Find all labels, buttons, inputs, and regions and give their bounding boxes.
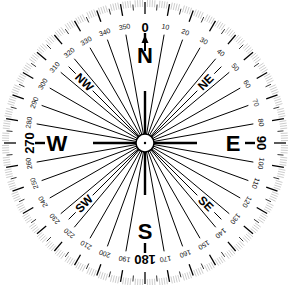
degree-label: 70 <box>251 98 260 108</box>
fine-tick <box>277 108 284 110</box>
fine-tick <box>277 176 284 178</box>
fine-tick <box>278 113 285 114</box>
major-tick <box>86 264 89 269</box>
fine-tick <box>164 1 165 8</box>
major-tick <box>47 45 51 49</box>
fine-tick <box>185 273 187 280</box>
degree-label: 190 <box>118 255 131 264</box>
fine-tick <box>11 92 18 95</box>
major-tick <box>47 237 51 241</box>
fine-tick <box>110 4 112 11</box>
major-tick <box>272 165 284 167</box>
fine-tick <box>8 183 15 185</box>
fine-tick <box>265 207 271 210</box>
fine-tick <box>189 8 191 15</box>
fine-tick <box>194 270 197 277</box>
fine-tick <box>274 99 281 101</box>
fine-tick <box>12 194 18 197</box>
fine-tick <box>128 1 129 8</box>
fine-tick <box>91 10 94 16</box>
degree-label: 100 <box>257 157 266 170</box>
cardinal-letter-e: E <box>226 131 241 156</box>
degree-label: 120 <box>241 195 253 209</box>
intercardinal-ray-outer <box>214 67 221 74</box>
fine-tick <box>8 180 15 182</box>
fine-tick <box>266 205 272 208</box>
fine-tick <box>279 116 286 117</box>
major-tick <box>277 131 283 132</box>
intercardinal-ray <box>93 149 139 195</box>
fine-tick <box>196 269 199 275</box>
fine-tick <box>267 80 273 83</box>
degree-label: 50 <box>230 62 240 73</box>
degree-label: 240 <box>37 195 49 209</box>
fine-tick <box>272 192 279 195</box>
radial-ray <box>74 59 139 136</box>
major-tick <box>19 199 24 202</box>
radial-ray <box>151 59 216 136</box>
major-tick <box>157 5 158 11</box>
fine-tick <box>280 123 287 124</box>
major-tick <box>257 73 267 79</box>
major-tick <box>239 237 243 241</box>
fine-tick <box>269 85 275 88</box>
radial-ray <box>152 149 229 214</box>
major-tick <box>133 275 134 281</box>
fine-tick <box>189 272 191 279</box>
major-tick <box>272 119 284 121</box>
intercardinal-label-ne: NE <box>195 71 217 93</box>
major-tick <box>75 255 81 265</box>
major-tick <box>7 131 13 132</box>
fine-tick <box>87 267 90 273</box>
fine-tick <box>113 4 115 11</box>
fine-tick <box>6 174 13 176</box>
fine-tick <box>18 205 24 208</box>
intercardinal-ray <box>151 149 197 195</box>
fine-tick <box>101 7 103 14</box>
degree-label: 20 <box>180 27 190 36</box>
fine-tick <box>78 263 81 269</box>
fine-tick <box>187 7 189 14</box>
fine-tick <box>8 104 15 106</box>
fine-tick <box>14 198 20 201</box>
fine-tick <box>115 276 116 283</box>
major-tick <box>179 271 181 277</box>
major-tick <box>31 219 36 222</box>
major-tick <box>109 271 111 277</box>
fine-tick <box>3 160 10 161</box>
fine-tick <box>209 17 212 23</box>
fine-tick <box>125 1 126 8</box>
fine-tick <box>266 78 272 81</box>
fine-tick <box>11 192 18 195</box>
radial-ray <box>152 72 229 137</box>
fine-tick <box>115 3 116 10</box>
major-tick <box>167 270 169 282</box>
major-tick <box>254 219 259 222</box>
fine-tick <box>91 269 94 275</box>
intercardinal-label-se: SE <box>195 193 216 214</box>
fine-tick <box>89 11 92 17</box>
fine-tick <box>278 171 285 172</box>
fine-tick <box>278 111 285 113</box>
major-tick <box>254 63 259 66</box>
major-tick <box>65 252 68 257</box>
major-tick <box>221 252 224 257</box>
major-tick <box>201 264 204 269</box>
fine-tick <box>19 76 25 79</box>
fine-tick <box>106 274 108 281</box>
major-tick <box>37 226 46 234</box>
fine-tick <box>207 264 210 270</box>
fine-tick <box>6 111 13 113</box>
fine-tick <box>182 6 184 13</box>
fine-tick <box>280 128 287 129</box>
fine-tick <box>103 273 105 280</box>
fine-tick <box>162 278 163 285</box>
major-tick <box>266 187 277 191</box>
fine-tick <box>274 185 281 187</box>
major-tick <box>37 52 46 60</box>
fine-tick <box>103 6 105 13</box>
cardinal-degree-0: 0 <box>141 20 148 35</box>
fine-tick <box>205 265 208 271</box>
degree-label: 150 <box>197 239 211 251</box>
fine-tick <box>270 87 276 90</box>
